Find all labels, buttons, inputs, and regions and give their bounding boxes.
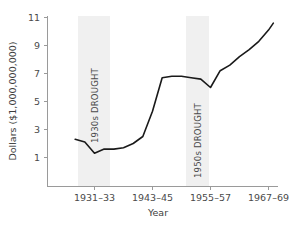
y-tick-label: 5 [34, 96, 40, 107]
drought-label-1930s: 1930s DROUGHT [90, 67, 100, 143]
y-tick-label: 3 [34, 124, 40, 135]
y-tick-label: 1 [34, 152, 40, 163]
x-tick-label: 1955–57 [190, 192, 231, 203]
y-axis-title: Dollars ($1,000,000,000) [7, 41, 18, 160]
y-tick-label: 11 [28, 12, 40, 23]
y-tick-label: 7 [34, 68, 40, 79]
drought-label-1950s: 1950s DROUGHT [193, 102, 203, 178]
y-tick-label: 9 [34, 40, 40, 51]
x-axis-title: Year [147, 207, 168, 218]
x-tick-label: 1943–45 [132, 192, 173, 203]
x-tick-label: 1931–33 [74, 192, 115, 203]
chart-canvas: 1 3 5 7 9 11 Dollars ($1,000,000,000) 19… [0, 0, 296, 232]
x-tick-label: 1967–69 [248, 192, 289, 203]
line-chart: 1 3 5 7 9 11 Dollars ($1,000,000,000) 19… [0, 0, 296, 232]
